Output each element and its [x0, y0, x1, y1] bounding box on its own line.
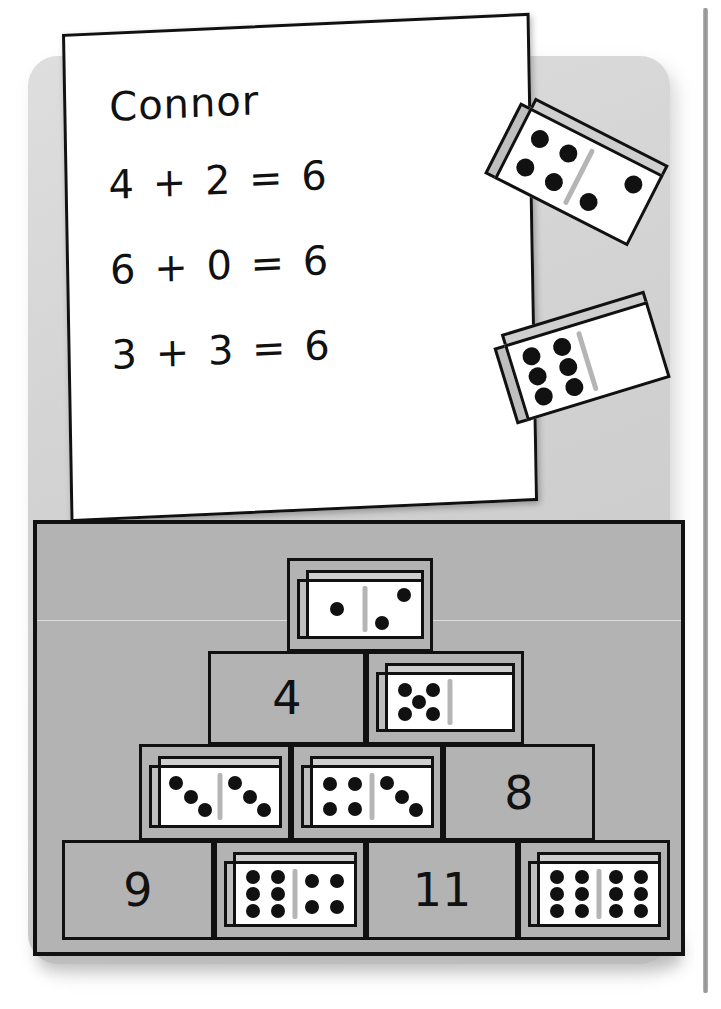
worksheet-paper: Connor 4 + 2 = 6 6 + 0 = 6 3 + 3 = 6: [62, 34, 532, 534]
page-margin-rule: [703, 8, 708, 993]
equation-3: 3 + 3 = 6: [111, 322, 333, 378]
domino-half-right: [450, 675, 512, 729]
domino-pip: [330, 874, 344, 888]
domino-pip: [634, 887, 648, 901]
domino-pip: [556, 141, 580, 165]
domino-face: [385, 672, 515, 732]
domino-pip: [330, 602, 344, 616]
domino-pip: [621, 172, 645, 196]
domino-pip: [533, 385, 555, 407]
illustration-stage: Connor 4 + 2 = 6 6 + 0 = 6 3 + 3 = 6 489…: [0, 0, 721, 1009]
domino-pip: [246, 904, 260, 918]
equation-1: 4 + 2 = 6: [108, 152, 330, 208]
pyramid-cell-number[interactable]: 9: [62, 840, 214, 940]
domino-pip: [527, 365, 549, 387]
domino-pip: [557, 356, 579, 378]
domino-pip: [348, 802, 362, 816]
domino-pip: [551, 336, 573, 358]
domino-pip: [575, 887, 589, 901]
pyramid-cell-domino[interactable]: [366, 651, 524, 745]
pyramid-cell-domino[interactable]: [214, 840, 366, 940]
domino-pip: [575, 904, 589, 918]
pyramid-cell-domino[interactable]: [291, 744, 443, 841]
domino-pip: [634, 870, 648, 884]
domino-pip: [330, 900, 344, 914]
domino-half-right: [372, 768, 431, 825]
domino-tile: [528, 852, 661, 927]
domino-pip: [246, 887, 260, 901]
domino-pip: [323, 777, 337, 791]
domino-face: [158, 765, 282, 828]
domino-pip: [609, 904, 623, 918]
handwritten-work: Connor 4 + 2 = 6 6 + 0 = 6 3 + 3 = 6: [62, 13, 532, 516]
domino-face: [537, 861, 661, 927]
pyramid-cell-number[interactable]: 4: [208, 651, 366, 745]
pyramid-cell-domino[interactable]: [518, 840, 670, 940]
cell-number-label: 4: [272, 671, 301, 725]
domino-face: [310, 765, 434, 828]
domino-pip: [634, 904, 648, 918]
domino-pip: [577, 190, 601, 214]
domino-half-left: [309, 582, 365, 636]
domino-pip: [323, 802, 337, 816]
domino-pip: [305, 874, 319, 888]
domino-pip: [257, 803, 271, 817]
domino-half-left: [236, 864, 295, 924]
domino-pip: [271, 887, 285, 901]
domino-pip: [397, 588, 411, 602]
domino-pip: [375, 616, 389, 630]
domino-face: [306, 579, 424, 639]
domino-tile: [297, 570, 424, 639]
pyramid-cell-domino[interactable]: [287, 558, 433, 652]
domino-pip: [228, 776, 242, 790]
domino-pip: [541, 170, 565, 194]
domino-pip: [198, 803, 212, 817]
domino-pip: [513, 156, 537, 180]
domino-pip: [528, 127, 552, 151]
equation-2: 6 + 0 = 6: [110, 237, 332, 293]
pyramid-cell-number[interactable]: 8: [443, 744, 595, 841]
domino-pip: [609, 887, 623, 901]
domino-pip: [563, 376, 585, 398]
cell-number-label: 9: [123, 863, 152, 917]
domino-pip: [520, 345, 542, 367]
domino-pip: [380, 776, 394, 790]
domino-half-left: [388, 675, 450, 729]
domino-half-left: [313, 768, 372, 825]
pyramid-cell-number[interactable]: 11: [366, 840, 518, 940]
domino-tile: [224, 852, 357, 927]
domino-pip: [575, 870, 589, 884]
domino-pip: [609, 870, 623, 884]
domino-half-left: [540, 864, 599, 924]
domino-pip: [426, 683, 440, 697]
domino-half-left: [161, 768, 220, 825]
domino-pip: [184, 790, 198, 804]
domino-pip: [348, 777, 362, 791]
domino-pip: [409, 803, 423, 817]
domino-half-right: [599, 864, 658, 924]
domino-tile: [301, 756, 434, 828]
cell-number-label: 8: [504, 766, 533, 820]
domino-pip: [426, 707, 440, 721]
domino-pip: [243, 790, 257, 804]
domino-pip: [412, 695, 426, 709]
domino-pip: [550, 870, 564, 884]
domino-pip: [246, 870, 260, 884]
domino-tile: [376, 663, 515, 732]
domino-pip: [305, 900, 319, 914]
domino-tile: [149, 756, 282, 828]
domino-pip: [395, 790, 409, 804]
domino-half-right: [295, 864, 354, 924]
domino-pip: [550, 904, 564, 918]
domino-pip: [398, 707, 412, 721]
domino-pip: [271, 870, 285, 884]
pyramid-cell-domino[interactable]: [139, 744, 291, 841]
domino-half-right: [220, 768, 279, 825]
domino-half-right: [365, 582, 421, 636]
domino-face: [233, 861, 357, 927]
cell-number-label: 11: [413, 863, 472, 917]
domino-pip: [550, 887, 564, 901]
domino-pip: [169, 776, 183, 790]
domino-pip: [271, 904, 285, 918]
domino-pip: [398, 683, 412, 697]
